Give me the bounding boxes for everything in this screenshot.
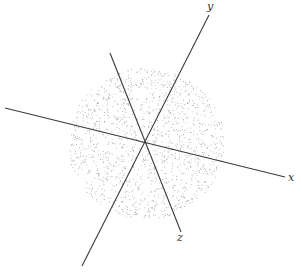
3d-axes-diagram: x y z [0, 0, 302, 277]
y-axis-line [82, 15, 209, 266]
x-axis-label: x [288, 171, 295, 184]
y-axis-label: y [206, 0, 214, 13]
z-axis-label: z [176, 231, 183, 244]
axes-group: x y z [5, 0, 295, 266]
